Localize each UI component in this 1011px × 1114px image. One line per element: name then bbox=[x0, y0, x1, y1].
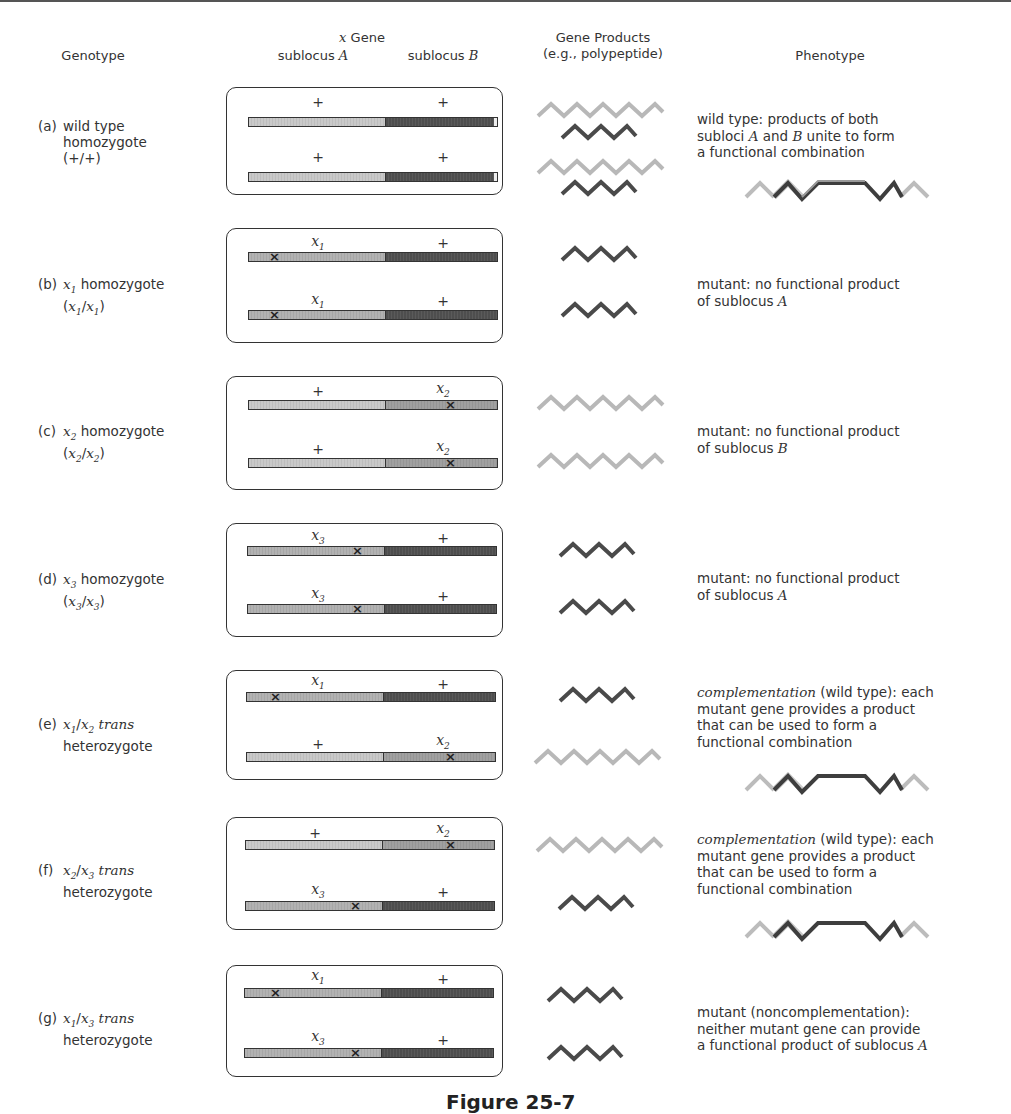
product-a-zigzag-icon bbox=[535, 451, 665, 471]
chromosome-bar bbox=[245, 901, 495, 911]
allele-label: + bbox=[428, 150, 458, 164]
phenotype-g: mutant (noncomplementation):neither muta… bbox=[697, 1004, 928, 1054]
product-a-zigzag-icon bbox=[532, 747, 662, 767]
allele-label: + bbox=[428, 1033, 458, 1047]
product-b-zigzag-icon bbox=[560, 178, 640, 198]
row-letter: (g) bbox=[38, 1010, 63, 1026]
allele-label: x1 bbox=[303, 292, 333, 312]
header-genotype: Genotype bbox=[48, 48, 138, 64]
allele-label: x3 bbox=[303, 1029, 333, 1049]
allele-label: + bbox=[303, 384, 333, 398]
chromosome-pair-box-f bbox=[226, 817, 503, 930]
functional-combination-icon bbox=[740, 175, 940, 209]
chromosome-pair-box-d bbox=[226, 523, 503, 637]
allele-label: + bbox=[428, 294, 458, 308]
allele-label: + bbox=[428, 589, 458, 603]
mutation-x1-marker-icon: × bbox=[270, 988, 280, 998]
allele-label: + bbox=[303, 95, 333, 109]
mutation-x2-marker-icon: × bbox=[445, 752, 455, 762]
header-sublocus-b: sublocus B bbox=[398, 48, 488, 64]
chromosome-bar bbox=[248, 117, 498, 127]
genotype-line: (x2/x2) bbox=[38, 445, 164, 467]
phenotype-b: mutant: no functional productof sublocus… bbox=[697, 276, 899, 309]
genotype-line: (x3/x3) bbox=[38, 593, 164, 615]
product-b-zigzag-icon bbox=[546, 985, 626, 1005]
genotype-g: (g)x1/x3 trans heterozygote bbox=[38, 1010, 152, 1048]
allele-label: + bbox=[428, 95, 458, 109]
genotype-d: (d)x3 homozygote (x3/x3) bbox=[38, 571, 164, 614]
allele-label: + bbox=[428, 885, 458, 899]
chromosome-bar bbox=[245, 840, 495, 850]
mutation-x3-marker-icon: × bbox=[352, 546, 362, 556]
product-b-zigzag-icon bbox=[558, 540, 638, 560]
allele-label: + bbox=[303, 150, 333, 164]
product-b-zigzag-icon bbox=[557, 893, 637, 913]
header-x-gene: x Gene bbox=[322, 30, 402, 46]
chromosome-bar bbox=[246, 692, 496, 702]
genotype-line: heterozygote bbox=[38, 738, 152, 754]
product-b-zigzag-icon bbox=[560, 122, 640, 142]
allele-label: + bbox=[428, 972, 458, 986]
mutation-x1-marker-icon: × bbox=[269, 310, 279, 320]
header-sublocus-a: sublocus A bbox=[268, 48, 358, 64]
mutation-x3-marker-icon: × bbox=[350, 1048, 360, 1058]
chromosome-bar bbox=[248, 252, 498, 262]
header-gene-products-line1: Gene Products bbox=[528, 30, 678, 46]
mutation-x1-marker-icon: × bbox=[269, 252, 279, 262]
allele-label: + bbox=[428, 236, 458, 250]
allele-label: x3 bbox=[303, 528, 333, 548]
genotype-e: (e)x1/x2 trans heterozygote bbox=[38, 716, 152, 754]
functional-combination-icon bbox=[740, 768, 940, 802]
chromosome-bar bbox=[248, 400, 498, 410]
functional-combination-icon bbox=[740, 915, 940, 949]
genotype-line: heterozygote bbox=[38, 884, 152, 900]
product-b-zigzag-icon bbox=[558, 597, 638, 617]
genotype-c: (c)x2 homozygote (x2/x2) bbox=[38, 423, 164, 466]
genotype-line: (x1/x1) bbox=[38, 298, 164, 320]
phenotype-d: mutant: no functional productof sublocus… bbox=[697, 570, 899, 603]
mutation-x2-marker-icon: × bbox=[445, 458, 455, 468]
genotype-line: heterozygote bbox=[38, 1032, 152, 1048]
allele-label: + bbox=[428, 531, 458, 545]
genotype-line: wild type bbox=[63, 118, 125, 134]
product-a-zigzag-icon bbox=[535, 100, 665, 120]
chromosome-pair-box-e bbox=[226, 670, 503, 780]
product-a-zigzag-icon bbox=[534, 835, 664, 855]
genotype-line: (+/+) bbox=[38, 150, 147, 166]
header-gene-products-line2: (e.g., polypeptide) bbox=[528, 46, 678, 62]
product-a-zigzag-icon bbox=[535, 393, 665, 413]
figure-caption: Figure 25-7 bbox=[446, 1090, 576, 1114]
allele-label: x1 bbox=[303, 968, 333, 988]
product-b-zigzag-icon bbox=[546, 1043, 626, 1063]
header-gene-products: Gene Products (e.g., polypeptide) bbox=[528, 30, 678, 62]
chromosome-bar bbox=[247, 604, 497, 614]
row-letter: (b) bbox=[38, 276, 63, 292]
allele-label: x1 bbox=[303, 673, 333, 693]
row-letter: (c) bbox=[38, 423, 63, 439]
phenotype-a: wild type: products of bothsubloci A and… bbox=[697, 111, 895, 161]
allele-label: x3 bbox=[303, 882, 333, 902]
top-rule bbox=[0, 0, 1011, 2]
product-a-zigzag-icon bbox=[535, 157, 665, 177]
allele-label: x1 bbox=[303, 234, 333, 254]
genotype-a: (a)wild type homozygote (+/+) bbox=[38, 118, 147, 166]
allele-label: + bbox=[303, 442, 333, 456]
product-b-zigzag-icon bbox=[558, 685, 638, 705]
mutation-x1-marker-icon: × bbox=[270, 692, 280, 702]
mutation-x2-marker-icon: × bbox=[445, 840, 455, 850]
allele-label: x3 bbox=[303, 586, 333, 606]
chromosome-bar bbox=[248, 172, 498, 182]
genotype-f: (f)x2/x3 trans heterozygote bbox=[38, 862, 152, 900]
genotype-b: (b)x1 homozygote (x1/x1) bbox=[38, 276, 164, 319]
chromosome-bar bbox=[248, 310, 498, 320]
mutation-x3-marker-icon: × bbox=[350, 901, 360, 911]
header-phenotype: Phenotype bbox=[770, 48, 890, 64]
row-letter: (e) bbox=[38, 716, 63, 732]
chromosome-bar bbox=[248, 458, 498, 468]
chromosome-bar bbox=[246, 752, 496, 762]
allele-label: + bbox=[428, 677, 458, 691]
product-b-zigzag-icon bbox=[560, 244, 640, 264]
genotype-line: homozygote bbox=[38, 134, 147, 150]
chromosome-pair-box-c bbox=[226, 376, 503, 490]
chromosome-pair-box-g bbox=[226, 965, 503, 1077]
